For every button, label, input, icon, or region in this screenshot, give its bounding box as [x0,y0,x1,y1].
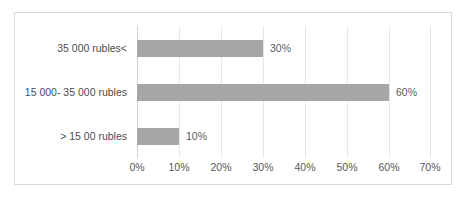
bar-value-label-2: 10% [186,131,207,142]
x-tick-label-0: 0% [129,162,144,173]
x-tick-label-4: 40% [294,162,315,173]
bar-2[interactable] [137,128,179,145]
x-tick-label-3: 30% [252,162,273,173]
bar-series: 30% 60% 10% [137,26,431,158]
bar-row: 10% [137,114,431,158]
x-tick-label-1: 10% [168,162,189,173]
plot-area: 30% 60% 10% [137,26,431,158]
bar-row: 30% [137,26,431,70]
category-axis-labels: 35 000 rubles< 15 000- 35 000 rubles > 1… [15,26,133,158]
x-tick-label-7: 70% [419,162,440,173]
chart-frame: 35 000 rubles< 15 000- 35 000 rubles > 1… [14,12,452,185]
bar-1[interactable] [137,84,389,101]
bar-row: 60% [137,70,431,114]
category-label-0: 35 000 rubles< [15,26,127,70]
bar-value-label-1: 60% [396,87,417,98]
bar-0[interactable] [137,40,263,57]
bar-value-label-0: 30% [270,43,291,54]
x-tick-label-5: 50% [336,162,357,173]
category-label-1: 15 000- 35 000 rubles [15,70,127,114]
x-tick-label-2: 20% [210,162,231,173]
value-axis-ticks: 0% 10% 20% 30% 40% 50% 60% 70% [137,162,431,178]
category-label-2: > 15 00 rubles [15,114,127,158]
x-tick-label-6: 60% [378,162,399,173]
